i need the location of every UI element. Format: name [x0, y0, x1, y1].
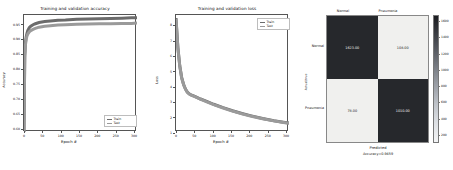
loss-xtick-2: 100 — [207, 134, 219, 138]
loss-xtick-4: 200 — [243, 134, 255, 138]
legend-line-icon — [107, 119, 112, 120]
accuracy-x-axis-label: Epoch # — [55, 139, 83, 144]
loss-ytick-4: 5 — [162, 70, 172, 74]
accuracy-panel: Training and validation accuracy Accurac… — [0, 0, 150, 170]
accuracy-ytick-7: 0.95 — [6, 23, 20, 27]
loss-xtick-0: 0 — [170, 134, 182, 138]
loss-y-axis-label: Loss — [155, 76, 159, 83]
cm-colorbar-tick-1000: 1000 — [441, 68, 449, 72]
cm-x-axis-label: Predicted — [303, 146, 453, 150]
loss-legend[interactable]: Train Test — [257, 18, 290, 30]
accuracy-ytick-6: 0.90 — [6, 37, 20, 41]
loss-ytick-5: 6 — [162, 54, 172, 58]
accuracy-ytick-3: 0.75 — [6, 82, 20, 86]
loss-chart-title: Training and validation loss — [152, 6, 302, 11]
loss-panel: Training and validation loss Loss 8 7 6 … — [152, 0, 302, 170]
cm-cell-pneumonia-normal[interactable]: 78.00 — [327, 79, 378, 142]
accuracy-ytick-1: 0.65 — [6, 112, 20, 116]
accuracy-xtick-3: 150 — [73, 134, 85, 138]
loss-xtick-1: 50 — [188, 134, 200, 138]
accuracy-legend-label-test: Test — [114, 121, 120, 125]
loss-series-svg — [176, 15, 289, 132]
accuracy-xtick-6: 300 — [128, 134, 140, 138]
cm-y-axis-label: Actual/true — [304, 74, 308, 91]
legend-line-icon — [260, 22, 265, 23]
accuracy-xtick-1: 50 — [36, 134, 48, 138]
accuracy-xtick-2: 100 — [55, 134, 67, 138]
loss-legend-item-test[interactable]: Test — [260, 24, 287, 28]
cm-heatmap-grid[interactable]: 1623.00 108.00 78.00 1010.00 — [326, 15, 429, 143]
loss-xtick-6: 300 — [280, 134, 292, 138]
cm-cell-normal-normal[interactable]: 1623.00 — [327, 16, 378, 79]
loss-x-axis-label: Epoch # — [207, 139, 235, 144]
cm-colorbar-tick-1400: 1400 — [441, 35, 449, 39]
accuracy-chart-title: Training and validation accuracy — [0, 6, 150, 11]
loss-ytick-3: 4 — [162, 85, 172, 89]
accuracy-ytick-5: 0.85 — [6, 52, 20, 56]
loss-axes — [175, 14, 288, 131]
cm-colorbar-tick-1600: 1600 — [441, 19, 449, 23]
cm-colorbar-tick-1200: 1200 — [441, 52, 449, 56]
cm-cell-pneumonia-pneumonia[interactable]: 1010.00 — [378, 79, 429, 142]
accuracy-xtick-4: 200 — [91, 134, 103, 138]
loss-legend-label-test: Test — [267, 24, 273, 28]
cm-colorbar-tick-400: 400 — [441, 117, 447, 121]
confusion-matrix-panel: Normal Pneumonia Actual/true Normal Pneu… — [303, 0, 453, 170]
cm-colorbar-tick-600: 600 — [441, 100, 447, 104]
loss-ytick-7: 8 — [162, 23, 172, 27]
accuracy-ytick-2: 0.70 — [6, 97, 20, 101]
loss-ytick-1: 2 — [162, 116, 172, 120]
legend-line-icon — [260, 26, 265, 27]
accuracy-ytick-4: 0.80 — [6, 67, 20, 71]
accuracy-xtick-5: 250 — [110, 134, 122, 138]
cm-colorbar-tick-800: 800 — [441, 84, 447, 88]
accuracy-legend-item-test[interactable]: Test — [107, 121, 134, 125]
cm-row-label-pneumonia: Pneumonia — [301, 106, 324, 110]
loss-ytick-6: 7 — [162, 39, 172, 43]
accuracy-xtick-0: 0 — [18, 134, 30, 138]
cm-column-label-normal: Normal — [323, 9, 363, 13]
loss-test-line — [176, 19, 289, 123]
loss-xtick-3: 150 — [225, 134, 237, 138]
loss-ytick-2: 3 — [162, 100, 172, 104]
cm-colorbar-tick-200: 200 — [441, 133, 447, 137]
cm-accuracy-annotation: Accuracy=0.9459 — [303, 152, 453, 156]
loss-xtick-5: 250 — [262, 134, 274, 138]
cm-cell-normal-pneumonia[interactable]: 108.00 — [378, 16, 429, 79]
cm-column-label-pneumonia: Pneumonia — [365, 9, 411, 13]
matplotlib-figure: Training and validation accuracy Accurac… — [0, 0, 453, 170]
legend-line-icon — [107, 123, 112, 124]
accuracy-axes — [23, 14, 136, 131]
loss-train-line — [176, 18, 289, 123]
accuracy-ytick-0: 0.60 — [6, 127, 20, 131]
accuracy-legend[interactable]: Train Test — [104, 115, 137, 127]
cm-row-label-normal: Normal — [303, 44, 324, 48]
cm-colorbar — [433, 15, 439, 143]
